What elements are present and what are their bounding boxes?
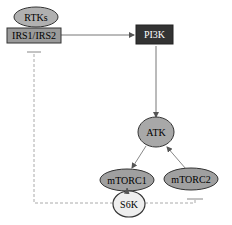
edge-atk-to-mtorc1 <box>132 146 146 168</box>
node-pi3k-label: PI3K <box>144 29 166 40</box>
pathway-diagram: RTKs IRS1/IRS2 PI3K ATK mTORC1 mTORC2 S6… <box>0 0 232 225</box>
edge-mtorc2-to-atk <box>167 147 186 169</box>
node-irs: IRS1/IRS2 <box>7 28 61 43</box>
node-mtorc2-label: mTORC2 <box>171 174 210 185</box>
edge-mtorc1-to-s6k-arrow-final <box>127 189 128 192</box>
node-irs-label: IRS1/IRS2 <box>12 30 56 41</box>
edge-s6k-inhibits-mtorc2 <box>145 199 195 203</box>
node-s6k: S6K <box>113 191 145 217</box>
node-pi3k: PI3K <box>136 25 173 44</box>
node-rtks: RTKs <box>14 7 58 27</box>
node-atk-label: ATK <box>146 127 166 138</box>
node-s6k-label: S6K <box>120 199 139 210</box>
node-mtorc1-label: mTORC1 <box>107 175 146 186</box>
node-mtorc2: mTORC2 <box>164 168 218 190</box>
node-rtks-label: RTKs <box>24 12 47 23</box>
node-atk: ATK <box>138 117 174 147</box>
node-mtorc1: mTORC1 <box>100 169 154 191</box>
